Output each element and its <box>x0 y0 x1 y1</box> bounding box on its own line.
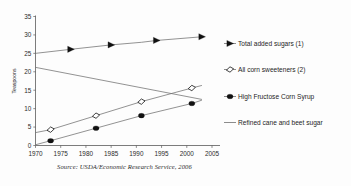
series-2-marker <box>189 101 195 106</box>
x-tick-label: 1970 <box>28 150 43 157</box>
series-1-marker <box>138 99 145 104</box>
x-tick-label: 1975 <box>54 150 69 157</box>
y-tick-label: 20 <box>24 68 32 75</box>
y-axis-title: Teaspoons <box>11 68 17 93</box>
series-1-marker <box>188 85 195 90</box>
series-2-marker <box>93 126 99 131</box>
series-0-marker <box>199 34 206 40</box>
series-line-0 <box>36 37 202 54</box>
series-0-marker <box>108 42 115 48</box>
series-line-3 <box>36 67 202 99</box>
x-tick-label: 1995 <box>154 150 169 157</box>
y-tick-label: 15 <box>24 87 32 94</box>
legend-1-marker <box>226 67 233 72</box>
series-1-marker <box>92 113 99 118</box>
sugar-consumption-chart-figure: 0510152025303519701975198019851990199520… <box>0 0 351 186</box>
y-tick-label: 30 <box>24 31 32 38</box>
x-tick-label: 1990 <box>129 150 144 157</box>
x-tick-label: 2005 <box>205 150 220 157</box>
series-0-marker <box>68 46 75 52</box>
legend-label-1: All corn sweeteners (2) <box>238 66 305 74</box>
legend-label-0: Total added sugars (1) <box>238 40 304 48</box>
y-tick-label: 25 <box>24 50 32 57</box>
series-2-marker <box>138 113 144 118</box>
y-tick-label: 5 <box>28 123 32 130</box>
legend-label-2: High Fructose Corn Syrup <box>238 93 315 101</box>
series-2-marker <box>48 138 54 143</box>
series-line-1 <box>36 85 202 132</box>
series-0-marker <box>153 37 160 43</box>
y-tick-label: 0 <box>28 142 32 149</box>
x-tick-label: 1985 <box>104 150 119 157</box>
y-tick-label: 35 <box>24 13 32 20</box>
line-chart-plot: 0510152025303519701975198019851990199520… <box>0 0 351 186</box>
series-1-marker <box>47 127 54 132</box>
legend-label-3: Refined cane and beet sugar <box>238 119 323 127</box>
legend-2-marker <box>227 94 233 99</box>
source-caption: Source: USDA/Economic Research Service, … <box>57 163 192 170</box>
series-line-2 <box>36 100 202 145</box>
x-tick-label: 2000 <box>180 150 195 157</box>
legend-0-marker <box>227 40 234 46</box>
x-tick-label: 1980 <box>79 150 94 157</box>
y-tick-label: 10 <box>24 105 32 112</box>
